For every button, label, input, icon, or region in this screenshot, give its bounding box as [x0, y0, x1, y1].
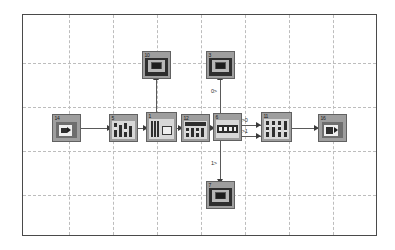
- source-block[interactable]: 14: [52, 114, 81, 142]
- scope-icon: [209, 58, 232, 76]
- matrix-block[interactable]: 11: [261, 112, 292, 142]
- signal-label-top-branch: 0>: [211, 88, 217, 94]
- output-port-icon: [321, 121, 344, 139]
- scope-block-top-right[interactable]: 3: [206, 51, 235, 79]
- processing-block[interactable]: 1: [146, 112, 177, 142]
- subsystem-icon: [149, 119, 174, 139]
- grid-line-horizontal: [23, 63, 376, 64]
- scope-block-top-left[interactable]: 10: [142, 51, 171, 79]
- scope-block-bottom[interactable]: 7: [206, 181, 235, 209]
- grid-line-horizontal: [23, 195, 376, 196]
- grid-line-horizontal: [23, 151, 376, 152]
- filter-block[interactable]: 5: [109, 114, 138, 142]
- signal-label-bottom-branch: 1>: [211, 160, 217, 166]
- model-frame: 0> 1> 0>0 1>1 14 5: [22, 14, 377, 236]
- wire-demux-to-scope-7: [220, 141, 221, 183]
- signal-router-icon: [216, 120, 239, 138]
- gain-array-icon: [264, 119, 289, 139]
- wire-source-to-filter: [81, 128, 109, 129]
- scope-icon: [145, 58, 168, 76]
- bus-selector-icon: [184, 121, 207, 139]
- input-port-icon: [55, 121, 78, 139]
- demux-block[interactable]: 6: [213, 113, 242, 141]
- mux-block[interactable]: 12: [181, 114, 210, 142]
- grid-line-horizontal: [23, 107, 376, 108]
- multi-signal-icon: [112, 121, 135, 139]
- diagram-canvas: 0> 1> 0>0 1>1 14 5: [0, 0, 395, 250]
- scope-icon: [209, 188, 232, 206]
- sink-block[interactable]: 16: [318, 114, 347, 142]
